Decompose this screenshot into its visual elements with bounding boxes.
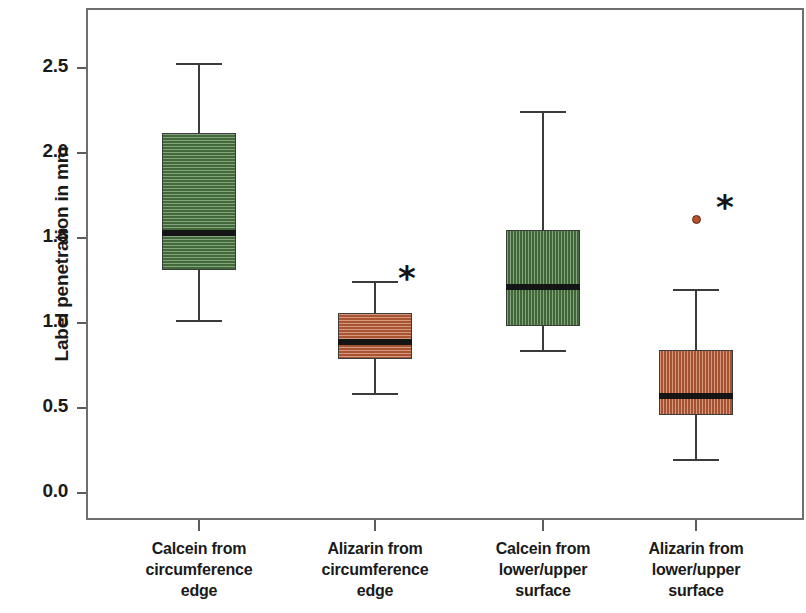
median-line [162,230,236,236]
whisker-cap-lower [520,350,566,352]
whisker-cap-upper [352,281,398,283]
y-tick-mark [77,492,86,494]
whisker-upper [542,111,544,230]
x-tick-label: Calcein fromcircumferenceedge [104,538,294,601]
significance-asterisk: * [716,190,734,224]
y-tick-label: 2.0 [8,140,68,162]
median-line [338,339,412,345]
y-tick-mark [77,67,86,69]
y-tick-label: 0.0 [8,480,68,502]
whisker-lower [542,326,544,350]
median-line [659,393,733,399]
whisker-upper [198,63,200,133]
whisker-cap-lower [176,320,222,322]
box-iqr [506,230,580,327]
whisker-lower [695,415,697,459]
whisker-cap-upper [520,111,566,113]
x-tick-label-line: Alizarin from [280,538,470,559]
boxplot-figure: Label penetration in mm 0.00.51.01.52.02… [0,0,806,613]
box-iqr [162,133,236,271]
whisker-cap-upper [673,289,719,291]
x-tick-mark [374,520,376,531]
median-line [506,284,580,290]
y-tick-label: 2.5 [8,55,68,77]
outlier-point [692,215,701,224]
whisker-cap-lower [352,393,398,395]
significance-asterisk: * [398,261,416,295]
y-tick-mark [77,407,86,409]
whisker-upper [374,281,376,313]
whisker-upper [695,289,697,350]
y-tick-label: 1.0 [8,310,68,332]
x-tick-mark [695,520,697,531]
y-tick-label: 1.5 [8,225,68,247]
y-tick-label: 0.5 [8,395,68,417]
x-tick-label-line: circumference [104,559,294,580]
x-tick-label: Alizarin fromlower/uppersurface [601,538,791,601]
box-iqr [338,313,412,359]
x-tick-label-line: Alizarin from [601,538,791,559]
x-tick-label-line: circumference [280,559,470,580]
whisker-cap-lower [673,459,719,461]
whisker-lower [198,270,200,319]
x-tick-mark [542,520,544,531]
y-tick-mark [77,152,86,154]
x-tick-mark [198,520,200,531]
whisker-cap-upper [176,63,222,65]
x-tick-label-line: Calcein from [104,538,294,559]
whisker-lower [374,359,376,393]
box-iqr [659,350,733,415]
x-tick-label: Alizarin fromcircumferenceedge [280,538,470,601]
x-tick-label-line: edge [280,580,470,601]
x-tick-label-line: lower/upper [601,559,791,580]
y-tick-mark [77,322,86,324]
y-tick-mark [77,237,86,239]
x-tick-label-line: surface [601,580,791,601]
x-tick-label-line: edge [104,580,294,601]
